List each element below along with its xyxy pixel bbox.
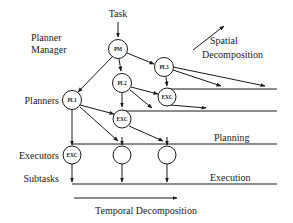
- pl2-to-exc3-edge: [131, 87, 158, 94]
- node-pm-label: PM: [114, 46, 122, 52]
- node-exc3-label: EXC: [162, 94, 173, 100]
- pl1-to-timeline-edge: [80, 107, 118, 141]
- task-label: Task: [109, 8, 128, 19]
- execution-label: Execution: [210, 172, 251, 183]
- executors-label: Executors: [19, 150, 59, 161]
- planning-label: Planning: [214, 132, 250, 143]
- subtasks-label: Subtasks: [23, 173, 59, 184]
- planner-manager-label-line2: Manager: [31, 44, 67, 55]
- node-exc1-label: EXC: [67, 152, 78, 158]
- pl1-edges: [72, 105, 118, 145]
- node-subtask3-circle[interactable]: [158, 146, 176, 164]
- diagram-canvas: PM PL3 PL2 PL1 EXC EXC EXC Task Planner …: [0, 0, 293, 223]
- pm-to-pl3-edge: [127, 53, 154, 64]
- exc3-edges: [170, 105, 206, 108]
- spatial-decomposition-label-line1: Spatial: [210, 35, 238, 46]
- spatial-decomposition-label-line2: Decomposition: [202, 49, 263, 60]
- decomposition-diagram: PM PL3 PL2 PL1 EXC EXC EXC Task Planner …: [0, 0, 293, 223]
- pm-to-pl2-edge: [119, 59, 121, 71]
- node-group: [63, 40, 177, 165]
- exc2-edges: [129, 126, 163, 141]
- node-pl1-label: PL1: [68, 97, 77, 103]
- exc2-to-timeline-edge: [129, 126, 163, 141]
- node-pl2-label: PL2: [118, 80, 127, 86]
- text-label-group: Task Planner Manager Planners Executors …: [19, 8, 263, 216]
- pl3-edges: [166, 67, 265, 86]
- node-pl3-label: PL3: [160, 64, 169, 70]
- node-subtask2-circle[interactable]: [113, 146, 131, 164]
- exc3-to-timeline-edge: [170, 105, 206, 108]
- pm-to-pl1-edge: [78, 57, 112, 92]
- planners-label: Planners: [25, 95, 60, 106]
- pl3-to-exc3-edge: [166, 77, 167, 86]
- pl3-to-timeline-b-edge: [173, 67, 265, 86]
- planner-manager-label-line1: Planner: [31, 32, 62, 43]
- temporal-decomposition-label: Temporal Decomposition: [95, 205, 197, 216]
- node-exc2-label: EXC: [117, 116, 128, 122]
- pl2-to-timeline-edge: [130, 90, 152, 108]
- pl1-to-exc2-edge: [80, 105, 114, 114]
